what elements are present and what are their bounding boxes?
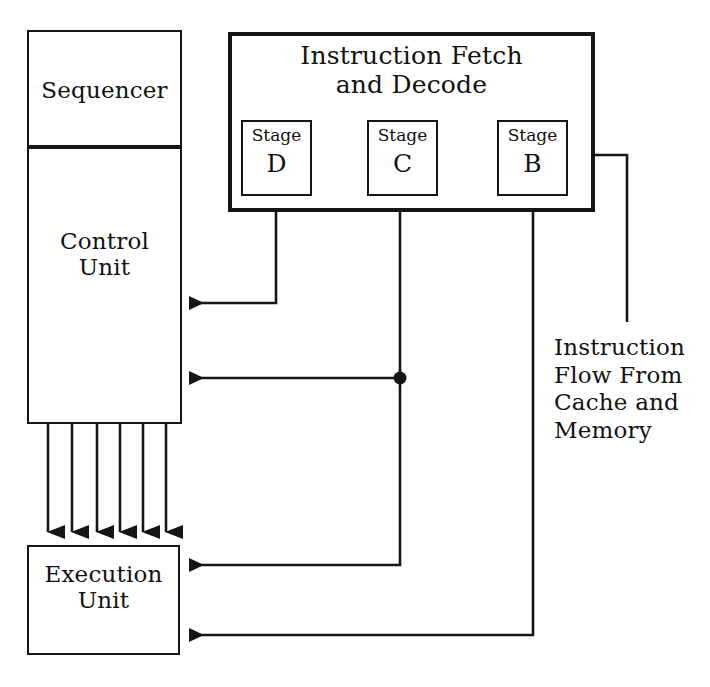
stage-d-box: Stage D <box>241 120 312 196</box>
wire-stage-b-to-execution-unit <box>189 196 533 635</box>
diagram-canvas: Sequencer Control Unit Execution Unit In… <box>0 0 710 687</box>
junction-dot-stage-c <box>394 372 407 385</box>
instruction-fetch-decode-label: Instruction Fetch and Decode <box>228 42 595 99</box>
sequencer-label: Sequencer <box>27 77 182 103</box>
stage-c-top-label: Stage <box>369 125 436 145</box>
wire-stage-d-to-control-unit <box>189 196 276 303</box>
stage-b-top-label: Stage <box>499 125 566 145</box>
execution-unit-label: Execution Unit <box>27 561 180 613</box>
control-unit-label: Control Unit <box>27 228 182 280</box>
stage-c-letter-label: C <box>369 149 436 178</box>
stage-b-letter-label: B <box>499 149 566 178</box>
instruction-flow-annotation: Instruction Flow From Cache and Memory <box>554 334 710 444</box>
sequencer-control-divider <box>27 145 182 149</box>
stage-b-box: Stage B <box>497 120 568 196</box>
stage-d-top-label: Stage <box>243 125 310 145</box>
stage-d-letter-label: D <box>243 149 310 178</box>
wire-stage-c-to-control-unit <box>189 196 400 378</box>
wire-stage-c-to-execution-unit <box>189 378 400 565</box>
stage-c-box: Stage C <box>367 120 438 196</box>
